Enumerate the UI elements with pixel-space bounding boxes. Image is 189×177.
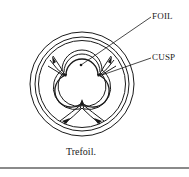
foil-dot xyxy=(80,64,83,67)
trefoil-moulding-mid xyxy=(58,54,106,106)
figure-caption: Trefoil. xyxy=(66,146,96,157)
cusp-bottom xyxy=(80,100,84,104)
outer-ring xyxy=(30,32,134,136)
outer-ring-inner xyxy=(35,37,129,131)
foil-label: FOIL xyxy=(152,11,173,21)
cusp-label: CUSP xyxy=(152,52,175,62)
bottom-rule xyxy=(0,167,189,169)
foil-leader xyxy=(81,17,151,65)
